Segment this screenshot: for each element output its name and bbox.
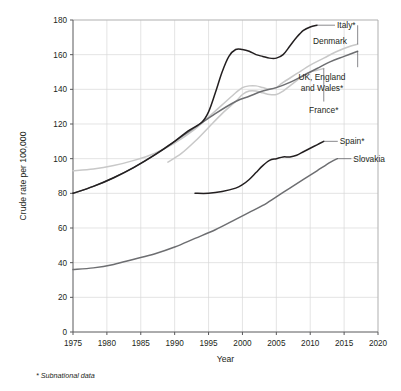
- series-label: Denmark: [313, 36, 348, 46]
- series-labels: Italy*DenmarkUK, Englandand Wales*France…: [298, 20, 385, 163]
- y-tick-label: 180: [53, 16, 67, 25]
- x-tick-label: 1990: [166, 339, 185, 348]
- y-tick-label: 100: [53, 155, 67, 164]
- x-tick-label: 1980: [98, 339, 117, 348]
- series-label: UK, England: [298, 72, 345, 82]
- x-tick-label: 2020: [369, 339, 388, 348]
- y-axis-ticks: 020406080100120140160180: [53, 16, 73, 337]
- series-group: [73, 25, 358, 269]
- x-tick-label: 1975: [64, 339, 83, 348]
- series-line: [73, 25, 317, 193]
- x-tick-label: 2015: [335, 339, 354, 348]
- series-label: Slovakia: [353, 154, 385, 164]
- y-tick-label: 0: [62, 328, 67, 337]
- chart-footnote: * Subnational data: [36, 371, 95, 380]
- x-tick-label: 2005: [267, 339, 286, 348]
- y-tick-label: 140: [53, 85, 67, 94]
- x-axis-title: Year: [217, 354, 235, 364]
- x-tick-label: 2000: [233, 339, 252, 348]
- series-label: France*: [309, 105, 339, 115]
- line-chart: 0204060801001201401601801975198019851990…: [0, 0, 401, 391]
- series-label: Spain*: [340, 136, 365, 146]
- y-tick-label: 60: [58, 224, 68, 233]
- x-axis-ticks: 1975198019851990199520002005201020152020: [64, 332, 388, 348]
- chart-container: 0204060801001201401601801975198019851990…: [0, 0, 401, 391]
- x-tick-label: 2010: [301, 339, 320, 348]
- x-tick-label: 1995: [199, 339, 218, 348]
- y-tick-label: 160: [53, 51, 67, 60]
- x-tick-label: 1985: [132, 339, 151, 348]
- series-label: and Wales*: [301, 83, 344, 93]
- y-axis-title: Crude rate per 100,000: [18, 131, 28, 220]
- y-tick-label: 40: [58, 259, 68, 268]
- series-line: [73, 159, 337, 270]
- y-tick-label: 120: [53, 120, 67, 129]
- series-label: Italy*: [337, 20, 356, 30]
- series-line: [195, 141, 324, 193]
- y-tick-label: 80: [58, 189, 68, 198]
- y-tick-label: 20: [58, 293, 68, 302]
